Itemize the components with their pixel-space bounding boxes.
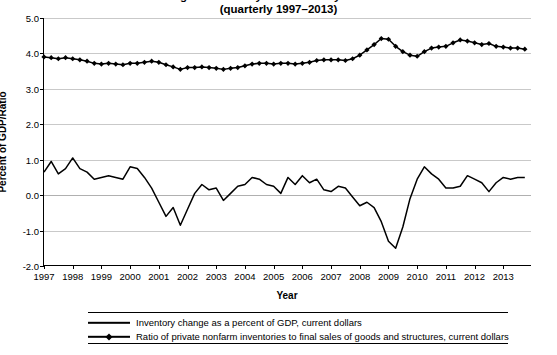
chart-subtitle: (quarterly 1997–2013) [0, 3, 557, 16]
x-axis-tick-label: 1999 [91, 271, 112, 282]
series-marker-1 [128, 61, 133, 66]
series-marker-1 [328, 57, 333, 62]
series-marker-1 [250, 61, 255, 66]
series-marker-1 [70, 56, 75, 61]
series-marker-1 [228, 66, 233, 71]
legend-item: Inventory change as a percent of GDP, cu… [88, 316, 508, 330]
series-marker-1 [343, 58, 348, 63]
series-marker-1 [278, 61, 283, 66]
x-axis-title: Year [43, 290, 531, 301]
series-marker-1 [106, 61, 111, 66]
series-marker-1 [336, 57, 341, 62]
x-axis-tick-label: 2008 [349, 271, 370, 282]
series-marker-1 [465, 38, 470, 43]
legend-key-diamond-line [88, 331, 130, 343]
series-marker-1 [99, 61, 104, 66]
series-marker-1 [350, 56, 355, 61]
legend-item: Ratio of private nonfarm inventories to … [88, 330, 508, 344]
series-marker-1 [458, 37, 463, 42]
x-axis-tick-label: 2007 [320, 271, 341, 282]
series-marker-1 [508, 46, 513, 51]
series-marker-1 [84, 59, 89, 64]
plot-area: 5.04.03.02.01.00.0-1.0-2.019971998199920… [43, 18, 531, 266]
diamond-icon [105, 333, 112, 340]
series-marker-1 [156, 60, 161, 65]
series-marker-1 [472, 40, 477, 45]
x-axis-tick-label: 2009 [378, 271, 399, 282]
series-marker-1 [135, 61, 140, 66]
series-marker-1 [113, 61, 118, 66]
series-marker-1 [515, 46, 520, 51]
x-axis-tick-label: 2011 [436, 271, 456, 282]
series-marker-1 [321, 57, 326, 62]
series-marker-1 [314, 58, 319, 63]
x-axis-tick-label: 2006 [292, 271, 313, 282]
x-axis-tick-label: 2002 [177, 271, 198, 282]
x-axis-tick-label: 1998 [62, 271, 83, 282]
series-marker-1 [407, 53, 412, 58]
legend-label: Inventory change as a percent of GDP, cu… [136, 316, 362, 330]
x-axis-tick-label: 2003 [206, 271, 227, 282]
series-marker-1 [221, 67, 226, 72]
legend-label: Ratio of private nonfarm inventories to … [136, 330, 509, 344]
series-marker-1 [199, 64, 204, 69]
series-marker-1 [479, 42, 484, 47]
series-marker-1 [77, 57, 82, 62]
series-marker-1 [92, 61, 97, 66]
series-marker-1 [120, 62, 125, 67]
series-marker-1 [49, 55, 54, 60]
y-axis-tick-label: -2.0 [23, 261, 39, 272]
x-axis-tick-label: 2005 [263, 271, 284, 282]
series-marker-1 [307, 60, 312, 65]
series-marker-1 [300, 61, 305, 66]
series-marker-1 [192, 65, 197, 70]
y-axis-tick-label: 3.0 [26, 83, 39, 94]
series-line-0 [44, 158, 525, 248]
x-axis-tick-label: 2012 [464, 271, 485, 282]
series-marker-1 [257, 61, 262, 66]
series-marker-1 [436, 44, 441, 49]
y-axis-tick-label: 1.0 [26, 154, 39, 165]
series-marker-1 [271, 61, 276, 66]
y-axis-tick-label: 5.0 [26, 13, 39, 24]
legend-bottom-rule [88, 343, 508, 344]
x-axis-tick-label: 2000 [120, 271, 141, 282]
y-axis-title: Percent of GDP/Ratio [0, 91, 8, 192]
series-marker-1 [149, 59, 154, 64]
series-marker-1 [41, 54, 46, 59]
chart-root: Change in Inventory and Inventory Sales … [0, 0, 557, 355]
series-marker-1 [214, 66, 219, 71]
series-layer [44, 18, 532, 266]
y-axis-tick-label: 0.0 [26, 190, 39, 201]
series-marker-1 [171, 64, 176, 69]
y-axis-tick-label: 2.0 [26, 119, 39, 130]
series-marker-1 [235, 65, 240, 70]
series-marker-1 [443, 44, 448, 49]
series-marker-1 [494, 44, 499, 49]
x-axis-tick-label: 2001 [148, 271, 169, 282]
series-marker-1 [293, 61, 298, 66]
y-axis-tick-label: -1.0 [23, 225, 39, 236]
series-marker-1 [56, 56, 61, 61]
series-marker-1 [522, 47, 527, 52]
series-marker-1 [178, 67, 183, 72]
series-marker-1 [450, 40, 455, 45]
legend-key-line [88, 317, 130, 329]
series-marker-1 [185, 65, 190, 70]
y-axis-tick-label: 4.0 [26, 48, 39, 59]
x-axis-tick-label: 2010 [407, 271, 428, 282]
x-axis-tick-label: 1997 [33, 271, 54, 282]
series-marker-1 [501, 44, 506, 49]
chart-title-block: Change in Inventory and Inventory Sales … [0, 0, 557, 16]
x-axis-tick-label: 2004 [234, 271, 255, 282]
series-marker-1 [486, 41, 491, 46]
series-marker-1 [142, 60, 147, 65]
series-marker-1 [242, 63, 247, 68]
series-marker-1 [163, 62, 168, 67]
series-marker-1 [429, 46, 434, 51]
x-axis-tick-label: 2013 [493, 271, 514, 282]
series-marker-1 [264, 61, 269, 66]
series-marker-1 [63, 55, 68, 60]
chart-legend: Inventory change as a percent of GDP, cu… [88, 312, 508, 344]
series-marker-1 [285, 61, 290, 66]
